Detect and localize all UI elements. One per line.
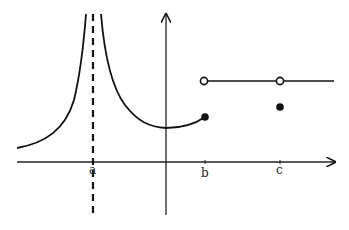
function-graph-diagram: a b c bbox=[0, 0, 349, 230]
left-branch-curve bbox=[17, 14, 86, 148]
closed-dot-at-b bbox=[201, 113, 209, 121]
label-c: c bbox=[276, 163, 283, 177]
right-branch-curve bbox=[101, 14, 205, 128]
open-circle-at-c bbox=[276, 77, 283, 84]
label-b: b bbox=[201, 166, 209, 180]
label-a: a bbox=[89, 163, 96, 177]
graph-svg: a b c bbox=[0, 0, 349, 230]
open-circle-at-b bbox=[200, 77, 207, 84]
closed-dot-at-c bbox=[276, 103, 284, 111]
